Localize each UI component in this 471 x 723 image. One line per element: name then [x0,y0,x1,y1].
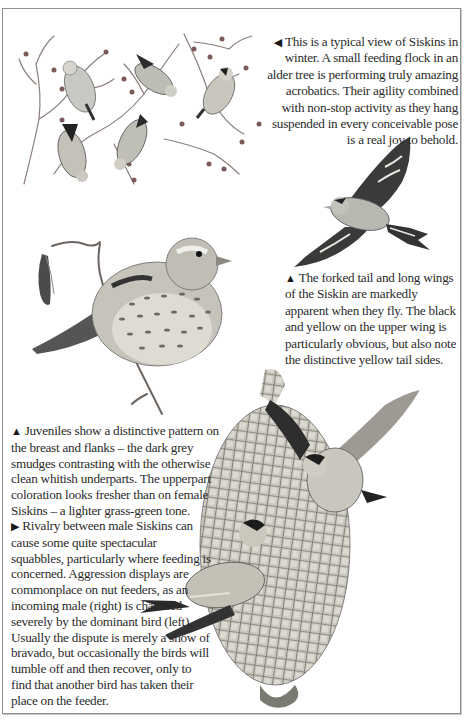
caption-rivalry: ▶Rivalry between male Siskins can cause … [11,518,211,709]
frame-shadow-bottom [3,714,462,715]
caption-flight-text: The forked tail and long wings of the Si… [285,270,456,367]
illustration-flying-siskin [290,132,450,270]
caption-flight: ▲The forked tail and long wings of the S… [285,270,463,368]
pointer-right-icon: ▶ [11,520,19,532]
caption-juvenile-text: Juveniles show a distinctive pattern on … [11,423,219,518]
caption-winter-flock: ◀This is a typical view of Siskins in wi… [262,34,458,149]
illustration-flock [14,24,264,194]
caption-juvenile: ▲Juveniles show a distinctive pattern on… [11,423,236,519]
pointer-left-icon: ◀ [274,36,282,48]
caption-rivalry-text: Rivalry between male Siskins can cause s… [11,518,211,708]
pointer-up-icon: ▲ [285,272,296,284]
pointer-up-icon: ▲ [11,425,22,437]
caption-winter-text: This is a typical view of Siskins in win… [267,34,458,147]
